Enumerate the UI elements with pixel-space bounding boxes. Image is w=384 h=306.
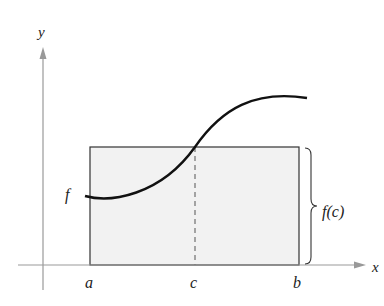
- brace-label-f-of-c: f(c): [322, 203, 344, 221]
- x-axis-label: x: [371, 259, 379, 275]
- point-label-c: c: [190, 274, 197, 291]
- f-of-c-brace: [305, 148, 317, 264]
- y-axis-arrow-icon: [40, 47, 47, 59]
- curve-label-f: f: [65, 186, 72, 204]
- point-label-b: b: [293, 274, 301, 291]
- point-label-a: a: [85, 274, 93, 291]
- mean-value-diagram: y x f a c b f(c): [0, 0, 384, 306]
- x-axis-arrow-icon: [354, 262, 366, 269]
- y-axis-label: y: [36, 24, 45, 40]
